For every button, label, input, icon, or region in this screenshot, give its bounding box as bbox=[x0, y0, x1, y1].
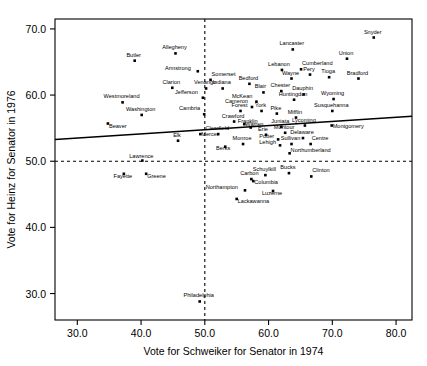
data-point bbox=[249, 126, 252, 129]
x-tick-label: 70.0 bbox=[322, 327, 343, 339]
data-point bbox=[309, 143, 312, 146]
data-point-label: Beaver bbox=[109, 123, 127, 129]
data-point-label: Monroe bbox=[233, 135, 252, 141]
data-point-label: Huntingdon bbox=[279, 91, 308, 97]
data-point-label: Clarion bbox=[162, 79, 180, 85]
data-point bbox=[221, 87, 224, 90]
data-point bbox=[133, 59, 136, 62]
data-point-label: Clinton bbox=[312, 167, 329, 173]
data-point-label: Philadelphia bbox=[183, 292, 214, 298]
data-point-label: Franklin bbox=[238, 118, 258, 124]
data-point bbox=[244, 189, 247, 192]
y-tick-label: 50.0 bbox=[26, 155, 47, 167]
y-tick-label: 40.0 bbox=[26, 221, 47, 233]
data-point bbox=[290, 77, 293, 80]
data-point bbox=[262, 91, 265, 94]
data-point-label: Mercer bbox=[201, 131, 219, 137]
data-point-label: Allegheny bbox=[162, 44, 187, 50]
data-point bbox=[171, 87, 174, 90]
data-point bbox=[260, 110, 263, 113]
y-axis-title: Vote for Heinz for Senator in 1976 bbox=[5, 90, 17, 248]
data-point bbox=[174, 52, 177, 55]
data-point bbox=[177, 139, 180, 142]
data-point-label: Snyder bbox=[364, 29, 382, 35]
x-axis-title: Vote for Schweiker for Senator in 1974 bbox=[144, 345, 324, 357]
data-point-label: Clearfield bbox=[205, 125, 229, 131]
data-point bbox=[372, 36, 375, 39]
data-point bbox=[328, 76, 331, 79]
data-point-label: Armstrong bbox=[165, 65, 191, 71]
data-point-label: Sullivan bbox=[281, 135, 301, 141]
scatter-plot-figure: 30.040.050.060.070.080.030.040.050.060.0… bbox=[0, 0, 427, 366]
data-point bbox=[357, 77, 360, 80]
x-tick-label: 60.0 bbox=[258, 327, 279, 339]
data-point-label: Centre bbox=[312, 135, 329, 141]
plot-frame bbox=[55, 19, 412, 320]
data-point bbox=[304, 124, 307, 127]
data-point-label: York bbox=[255, 102, 266, 108]
data-point bbox=[248, 83, 251, 86]
data-point-label: Bradford bbox=[347, 70, 368, 76]
data-point bbox=[276, 112, 279, 115]
data-point bbox=[197, 70, 200, 73]
data-point-label: Susquehanna bbox=[314, 102, 349, 108]
data-point-label: Luzerne bbox=[262, 190, 282, 196]
y-tick-label: 30.0 bbox=[26, 288, 47, 300]
data-point bbox=[302, 137, 305, 140]
data-point-label: Chester bbox=[271, 82, 291, 88]
data-point-label: Berks bbox=[216, 145, 231, 151]
data-point bbox=[140, 114, 143, 117]
data-point-label: Pery bbox=[303, 66, 315, 72]
x-tick-label: 50.0 bbox=[195, 327, 216, 339]
data-point-label: Greene bbox=[147, 173, 166, 179]
x-tick-label: 30.0 bbox=[67, 327, 88, 339]
data-point-label: Indiana bbox=[212, 79, 231, 85]
x-tick-label: 40.0 bbox=[131, 327, 152, 339]
data-point-label: Montgomery bbox=[333, 123, 364, 129]
data-point-label: Blair bbox=[255, 83, 266, 89]
data-point-label: Lycoming bbox=[292, 117, 316, 123]
y-tick-label: 70.0 bbox=[26, 23, 47, 35]
data-point bbox=[202, 96, 205, 99]
data-point-label: Tioga bbox=[321, 68, 336, 74]
data-point bbox=[233, 120, 236, 123]
data-point bbox=[310, 175, 313, 178]
data-point-label: Bedford bbox=[239, 75, 259, 81]
data-point-label: Lehigh bbox=[259, 139, 276, 145]
data-point-label: Jefferson bbox=[175, 89, 198, 95]
data-point-label: Northampton bbox=[206, 184, 238, 190]
data-point-label: Columbia bbox=[254, 179, 279, 185]
data-point-label: Lancaster bbox=[279, 40, 304, 46]
data-point bbox=[332, 98, 335, 101]
data-point bbox=[277, 138, 280, 141]
data-point bbox=[331, 110, 334, 113]
data-point-label: Forest bbox=[232, 102, 248, 108]
data-point bbox=[264, 174, 267, 177]
data-point-label: Bucks bbox=[280, 164, 295, 170]
data-point-label: Northumberland bbox=[291, 147, 331, 153]
data-point-label: Pike bbox=[270, 105, 281, 111]
data-point bbox=[205, 87, 208, 90]
data-point bbox=[242, 143, 245, 146]
data-point-label: Union bbox=[339, 50, 354, 56]
data-point-label: Elk bbox=[173, 132, 181, 138]
data-point-label: Lebanon bbox=[268, 61, 290, 67]
data-point-label: Lackawanna bbox=[238, 198, 270, 204]
data-point-label: Wyoming bbox=[321, 90, 344, 96]
data-point bbox=[290, 143, 293, 146]
data-point bbox=[217, 133, 220, 136]
data-point bbox=[309, 73, 312, 76]
data-point bbox=[198, 300, 201, 303]
data-point-label: Fayette bbox=[114, 173, 133, 179]
data-point-label: Lawrence bbox=[129, 153, 153, 159]
data-point bbox=[288, 172, 291, 175]
chart-canvas: 30.040.050.060.070.080.030.040.050.060.0… bbox=[0, 0, 427, 366]
data-point bbox=[346, 57, 349, 60]
data-point bbox=[300, 68, 303, 71]
data-point-label: Mifflin bbox=[288, 109, 303, 115]
data-point-label: Butler bbox=[126, 52, 141, 58]
data-point bbox=[141, 159, 144, 162]
data-point-label: Wayne bbox=[282, 70, 299, 76]
data-point-label: Cambria bbox=[179, 105, 201, 111]
x-tick-label: 80.0 bbox=[386, 327, 407, 339]
